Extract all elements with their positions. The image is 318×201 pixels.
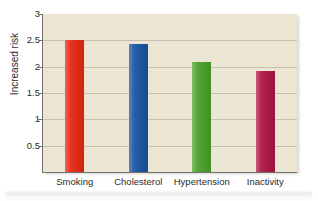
y-axis-tick-label: 1.5 bbox=[16, 88, 40, 98]
y-axis-tick-mark bbox=[38, 119, 42, 120]
x-axis-tick-label: Cholesterol bbox=[107, 175, 171, 188]
bar-highlight bbox=[192, 62, 211, 172]
y-axis-tick-mark bbox=[38, 93, 42, 94]
bar-chart-figure: Increased risk 32.521.510.5 SmokingChole… bbox=[0, 0, 318, 201]
y-axis-tick-mark bbox=[38, 67, 42, 68]
y-axis-tick-label: 2 bbox=[16, 62, 40, 72]
x-axis-spine bbox=[42, 172, 297, 173]
y-axis-tick-mark bbox=[38, 40, 42, 41]
bar-highlight bbox=[256, 71, 275, 172]
bar-cholesterol[interactable] bbox=[129, 44, 148, 172]
x-axis-tick-label-group: SmokingCholesterolHypertensionInactivity bbox=[43, 175, 297, 191]
x-axis-tick-label: Smoking bbox=[43, 175, 107, 188]
y-axis-tick-label: 3 bbox=[16, 9, 40, 19]
y-axis-tick-label: 0.5 bbox=[16, 141, 40, 151]
y-axis-tick-mark bbox=[38, 14, 42, 15]
x-axis-tick-label: Hypertension bbox=[170, 175, 234, 188]
y-axis-tick-mark bbox=[38, 146, 42, 147]
bar-hypertension[interactable] bbox=[192, 62, 211, 172]
bar-smoking[interactable] bbox=[65, 40, 84, 172]
y-axis-tick-label: 1 bbox=[16, 114, 40, 124]
bar-highlight bbox=[129, 44, 148, 172]
y-axis-tick-label: 2.5 bbox=[16, 35, 40, 45]
plot-area bbox=[43, 14, 297, 172]
y-axis-tick-label-group: 32.521.510.5 bbox=[16, 0, 40, 201]
bar-inactivity[interactable] bbox=[256, 71, 275, 172]
x-axis-tick-label: Inactivity bbox=[234, 175, 298, 188]
page-scan-artifact bbox=[6, 192, 312, 201]
bar-highlight bbox=[65, 40, 84, 172]
